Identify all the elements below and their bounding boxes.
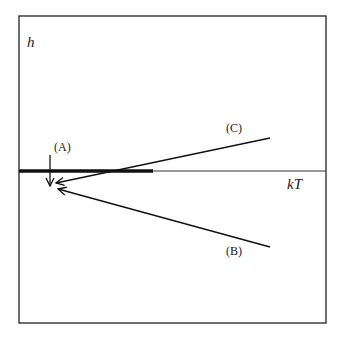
label-b: (B) bbox=[226, 244, 242, 259]
arrow-c bbox=[56, 138, 270, 183]
h-axis-label: h bbox=[27, 34, 35, 51]
phase-diagram bbox=[0, 0, 341, 340]
kt-axis-label: kT bbox=[287, 176, 302, 193]
label-a: (A) bbox=[54, 140, 71, 155]
label-c: (C) bbox=[226, 121, 242, 136]
arrow-b bbox=[58, 189, 270, 247]
